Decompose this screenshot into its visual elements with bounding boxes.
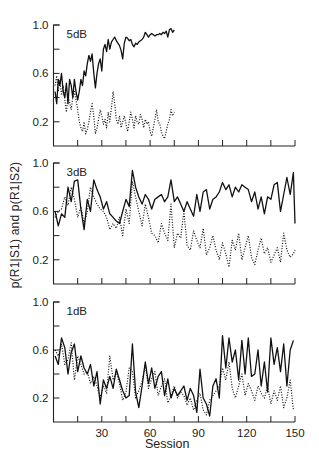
series-s2-line	[55, 181, 295, 267]
y-tick-label: 0.2	[33, 254, 49, 266]
x-tick-label: 90	[192, 427, 205, 439]
panel-5db: 0.20.61.05dB	[33, 19, 296, 146]
y-axis-label: p(R1|S1) and p(R1|S2)	[0, 150, 30, 300]
y-tick-label: 0.6	[33, 67, 49, 79]
x-tick-label: 120	[237, 427, 256, 439]
x-axis-label: Session	[145, 437, 189, 451]
figure: 0.20.61.05dB 0.20.61.03dB 0.20.61.030609…	[0, 0, 319, 465]
y-tick-label: 1.0	[33, 296, 49, 308]
series-s1-line	[55, 336, 293, 416]
panel-title: 5dB	[67, 28, 88, 40]
y-tick-label: 0.6	[33, 344, 49, 356]
panel-1db: 0.20.61.03060901201501dB	[33, 296, 305, 439]
y-tick-label: 0.2	[33, 116, 49, 128]
axes	[54, 163, 296, 284]
y-tick-label: 0.6	[33, 205, 49, 217]
y-tick-label: 0.2	[33, 392, 49, 404]
y-axis-label-text: p(R1|S1) and p(R1|S2)	[8, 162, 22, 289]
y-tick-label: 1.0	[33, 157, 49, 169]
x-tick-label: 30	[95, 427, 108, 439]
panel-3db: 0.20.61.03dB	[33, 157, 296, 284]
panel-title: 1dB	[67, 305, 88, 317]
x-tick-label: 150	[285, 427, 304, 439]
y-tick-label: 1.0	[33, 19, 49, 31]
series-s2-line	[55, 76, 174, 139]
axes	[54, 25, 296, 146]
series-s1-line	[55, 170, 295, 229]
panel-title: 3dB	[67, 166, 88, 178]
